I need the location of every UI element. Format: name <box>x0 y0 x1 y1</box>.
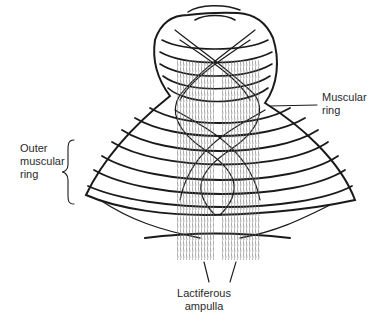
muscular-ring-label: Muscular ring <box>322 91 367 117</box>
outer-muscular-ring-label: Outer muscular ring <box>20 142 65 181</box>
lactiferous-ampulla-label: Lactiferous ampulla <box>164 287 244 313</box>
outline <box>86 13 355 215</box>
